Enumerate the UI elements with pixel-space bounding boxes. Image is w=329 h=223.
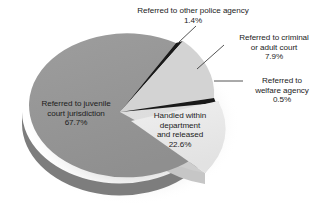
label-text-line: Handled within [154,111,206,120]
label-value: 1.4% [184,16,202,25]
label-referred-to-welfare-agency: Referred towelfare agency0.5% [236,76,328,105]
label-referred-to-criminal-court: Referred to criminalor adult court7.9% [222,33,326,62]
label-text-line: department [160,121,200,130]
label-handled-within-department: Handled withindepartmentand released22.6… [128,111,232,149]
label-value: 7.9% [265,52,283,61]
label-text-line: and released [157,130,203,139]
label-referred-to-other-police-agency: Referred to other police agency1.4% [113,6,273,25]
label-value: 67.7% [65,118,88,127]
label-text-line: Referred to [262,76,302,85]
police-agency-leader-line [179,26,196,42]
label-text-line: Referred to criminal [239,33,309,42]
criminal-court-leader-line [197,45,224,69]
label-text-line: or adult court [251,43,298,52]
label-text-line: court jurisdiction [47,109,105,118]
label-text-line: welfare agency [255,86,309,95]
label-text-line: Referred to juvenile [41,99,110,108]
label-referred-to-juvenile-court: Referred to juvenilecourt jurisdiction67… [18,99,134,128]
label-value: 0.5% [273,95,291,104]
label-text-line: Referred to other police agency [137,6,248,15]
pie-chart-figure: Referred to other police agency1.4% Refe… [0,0,329,223]
label-value: 22.6% [169,140,192,149]
